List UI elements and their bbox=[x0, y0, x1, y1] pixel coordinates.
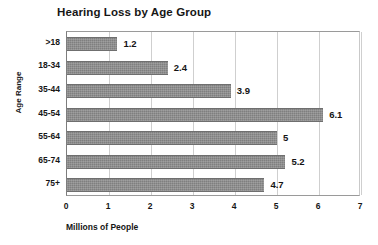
bar-row: 5 bbox=[67, 126, 359, 150]
bar-value-label: 5.2 bbox=[291, 155, 304, 169]
bar bbox=[67, 108, 323, 122]
x-axis-tick-label: 7 bbox=[350, 201, 370, 211]
x-axis-title: Millions of People bbox=[66, 222, 138, 232]
x-axis-tick-label: 4 bbox=[224, 201, 244, 211]
y-axis-tick-label: 18-34 bbox=[14, 60, 60, 70]
x-axis-tick-label: 6 bbox=[308, 201, 328, 211]
bar-value-label: 3.9 bbox=[237, 84, 250, 98]
y-axis-tick-label: 55-64 bbox=[14, 131, 60, 141]
bar-row: 1.2 bbox=[67, 32, 359, 56]
gridline bbox=[361, 32, 362, 195]
x-axis-tick-label: 5 bbox=[266, 201, 286, 211]
bar-value-label: 1.2 bbox=[123, 37, 136, 51]
bar-row: 6.1 bbox=[67, 103, 359, 127]
y-axis-tick-label: 65-74 bbox=[14, 155, 60, 165]
bar bbox=[67, 155, 285, 169]
bar-row: 4.7 bbox=[67, 173, 359, 197]
bar bbox=[67, 131, 277, 145]
x-axis-tick-label: 3 bbox=[182, 201, 202, 211]
x-axis-tick-label: 1 bbox=[98, 201, 118, 211]
y-axis-tick-label: >18 bbox=[14, 37, 60, 47]
bar-value-label: 2.4 bbox=[174, 61, 187, 75]
plot-area: 1.22.43.96.155.24.7 bbox=[66, 31, 360, 196]
bar bbox=[67, 61, 168, 75]
bar bbox=[67, 178, 264, 192]
x-axis-tick-label: 0 bbox=[56, 201, 76, 211]
y-axis-tick-label: 75+ bbox=[14, 178, 60, 188]
chart-title: Hearing Loss by Age Group bbox=[57, 6, 211, 18]
x-axis-tick-label: 2 bbox=[140, 201, 160, 211]
hearing-loss-bar-chart: Hearing Loss by Age Group Age Range >181… bbox=[0, 0, 378, 245]
bar-value-label: 5 bbox=[283, 131, 288, 145]
bar-value-label: 6.1 bbox=[329, 108, 342, 122]
y-axis-tick-label: 35-44 bbox=[14, 84, 60, 94]
bar-row: 3.9 bbox=[67, 79, 359, 103]
bar-row: 2.4 bbox=[67, 56, 359, 80]
bar bbox=[67, 84, 231, 98]
bar bbox=[67, 37, 117, 51]
y-axis-tick-label: 45-54 bbox=[14, 108, 60, 118]
bar-row: 5.2 bbox=[67, 150, 359, 174]
bar-value-label: 4.7 bbox=[270, 178, 283, 192]
